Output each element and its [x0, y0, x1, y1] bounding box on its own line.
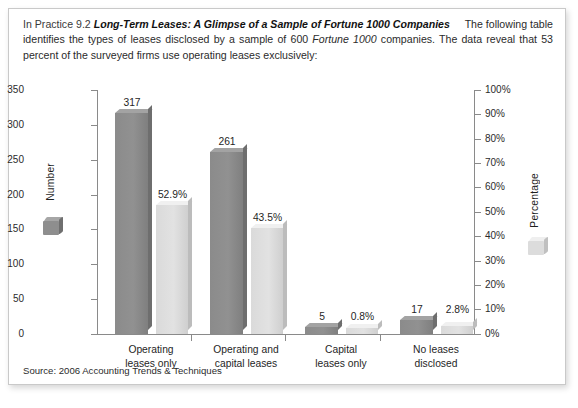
left-axis-line — [97, 90, 98, 334]
bar-number-capital-leases-only — [305, 327, 338, 334]
category-label-line-1: Capital — [293, 343, 389, 357]
intro-body-italic: Fortune 1000 — [312, 33, 376, 45]
lease-bar-chart: 0 50 100 150 200 250 300 350 0% 10% 20% … — [23, 71, 553, 376]
right-tick-90 — [475, 114, 481, 115]
right-tick-40 — [475, 236, 481, 237]
source-note: Source: 2006 Accounting Trends & Techniq… — [23, 365, 222, 376]
bar-label-percentage-4: 2.8% — [430, 304, 485, 315]
right-tick-label-10: 10% — [485, 303, 505, 314]
bar-label-percentage-1: 52.9% — [145, 189, 200, 200]
intro-lead: In Practice 9.2 — [23, 18, 91, 30]
right-tick-label-60: 60% — [485, 181, 505, 192]
right-tick-label-30: 30% — [485, 255, 505, 266]
right-tick-label-50: 50% — [485, 206, 505, 217]
right-tick-label-80: 80% — [485, 133, 505, 144]
left-tick-50 — [91, 299, 97, 300]
left-tick-100 — [91, 264, 97, 265]
bar-number-operating-leases-only — [115, 113, 148, 334]
bar-percentage-no-leases-disclosed — [441, 326, 473, 334]
intro-title: Long-Term Leases: A Glimpse of a Sample … — [94, 18, 450, 30]
right-tick-50 — [475, 212, 481, 213]
left-tick-label-200: 200 — [7, 189, 24, 200]
left-tick-150 — [91, 229, 97, 230]
category-label-line-1: Operating and — [198, 343, 294, 357]
left-axis-title: Number — [45, 163, 56, 201]
bar-number-operating-and-capital-leases — [210, 152, 243, 334]
category-label-line-2: disclosed — [388, 357, 484, 371]
left-tick-label-300: 300 — [7, 119, 24, 130]
left-tick-label-50: 50 — [13, 293, 24, 304]
category-label-line-2: leases only — [293, 357, 389, 371]
right-tick-60 — [475, 187, 481, 188]
bar-number-no-leases-disclosed — [400, 320, 433, 334]
bar-label-percentage-2: 43.5% — [240, 212, 295, 223]
left-tick-300 — [91, 125, 97, 126]
number-legend-swatch-icon — [43, 217, 63, 235]
right-tick-70 — [475, 163, 481, 164]
screenshot-root: In Practice 9.2 Long-Term Leases: A Glim… — [0, 0, 578, 408]
category-divider-2 — [285, 335, 286, 341]
right-tick-30 — [475, 261, 481, 262]
left-tick-0 — [91, 334, 97, 335]
left-tick-label-350: 350 — [7, 84, 24, 95]
left-tick-label-0: 0 — [18, 328, 24, 339]
right-tick-label-90: 90% — [485, 108, 505, 119]
left-tick-label-250: 250 — [7, 154, 24, 165]
left-tick-label-150: 150 — [7, 223, 24, 234]
category-label-line-1: Operating — [103, 343, 199, 357]
bar-percentage-operating-and-capital-leases — [251, 228, 283, 334]
category-label-capital-leases-only: Capital leases only — [293, 343, 389, 370]
category-label-no-leases-disclosed: No leases disclosed — [388, 343, 484, 370]
in-practice-panel: In Practice 9.2 Long-Term Leases: A Glim… — [8, 8, 566, 385]
right-tick-20 — [475, 285, 481, 286]
percentage-legend-swatch-icon — [528, 237, 548, 255]
bar-label-number-2: 261 — [202, 136, 252, 147]
right-tick-label-100: 100% — [485, 84, 511, 95]
category-divider-1 — [191, 335, 192, 341]
intro-paragraph: In Practice 9.2 Long-Term Leases: A Glim… — [23, 17, 553, 63]
right-tick-80 — [475, 139, 481, 140]
left-tick-250 — [91, 160, 97, 161]
left-tick-label-100: 100 — [7, 258, 24, 269]
bar-label-number-1: 317 — [107, 97, 157, 108]
right-tick-label-0: 0% — [485, 328, 499, 339]
right-tick-label-20: 20% — [485, 279, 505, 290]
bar-label-percentage-3: 0.8% — [335, 311, 390, 322]
right-tick-label-70: 70% — [485, 157, 505, 168]
category-divider-3 — [380, 335, 381, 341]
x-axis-line — [97, 334, 475, 335]
right-tick-0 — [475, 334, 481, 335]
bar-percentage-operating-leases-only — [156, 205, 188, 334]
bar-percentage-capital-leases-only — [346, 328, 378, 334]
left-tick-350 — [91, 90, 97, 91]
category-label-line-1: No leases — [388, 343, 484, 357]
right-tick-100 — [475, 90, 481, 91]
right-tick-label-40: 40% — [485, 230, 505, 241]
left-tick-200 — [91, 195, 97, 196]
right-axis-title: Percentage — [529, 173, 540, 228]
